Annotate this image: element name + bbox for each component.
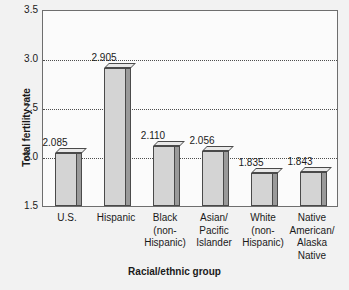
x-axis-title: Racial/ethnic group — [0, 266, 349, 277]
bar-front-face — [153, 146, 175, 206]
bar-front-face — [202, 151, 224, 206]
y-tick-label-2-5: 2.5 — [4, 103, 38, 113]
bar-asian-pacific-islander — [202, 146, 229, 206]
bar-front-face — [300, 172, 322, 206]
bar-native-american-alaska-native — [300, 167, 327, 206]
bar-front-face — [104, 68, 126, 206]
y-tick-label-3-5: 3.5 — [4, 5, 38, 15]
x-tick-line: American/ — [281, 225, 343, 238]
bar-side-face — [175, 146, 180, 206]
bar-front-face — [55, 153, 77, 206]
x-tick-line: Native — [281, 212, 343, 225]
y-tick-label-3-0: 3.0 — [4, 54, 38, 64]
bar-side-face — [273, 173, 278, 206]
bar-value-label-us: 2.085 — [32, 137, 78, 148]
y-tick-label-2-0: 2.0 — [4, 152, 38, 162]
bar-value-label-asian-pacific-islander: 2.056 — [179, 135, 225, 146]
bar-value-label-white-non-hispanic: 1.835 — [228, 157, 274, 168]
plot-area — [42, 10, 338, 207]
bar-side-face — [322, 172, 327, 206]
x-tick-line: Alaska — [281, 237, 343, 250]
bar-value-label-native-american-alaska-native: 1.843 — [277, 156, 323, 167]
bar-hispanic — [104, 63, 131, 206]
bar-white-non-hispanic — [251, 168, 278, 206]
y-axis-title: Total fertility rate — [21, 48, 32, 208]
y-tick-label-1-5: 1.5 — [4, 201, 38, 211]
bar-front-face — [251, 173, 273, 206]
bar-value-label-hispanic: 2.905 — [81, 52, 127, 63]
bar-black-non-hispanic — [153, 141, 180, 206]
gridline-2-5 — [43, 109, 337, 110]
chart-figure: Total fertility rate 3.5 3.0 2.5 2.0 1.5 — [0, 0, 349, 290]
bar-side-face — [77, 153, 82, 206]
bar-value-label-black-non-hispanic: 2.110 — [130, 130, 176, 141]
x-tick-label-native-american-alaska-native: Native American/ Alaska Native — [281, 212, 343, 262]
x-tick-line: Native — [281, 250, 343, 263]
bar-us — [55, 148, 82, 206]
